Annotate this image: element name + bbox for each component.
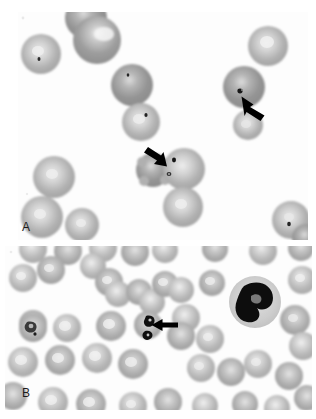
panel-a-label: A bbox=[22, 221, 31, 233]
figure-root: A B bbox=[0, 0, 316, 419]
panel-b-label: B bbox=[22, 387, 31, 399]
panel-a bbox=[18, 12, 308, 240]
neutrophil bbox=[229, 276, 281, 328]
panel-a-micrograph bbox=[18, 12, 308, 240]
panel-b bbox=[5, 246, 312, 410]
panel-b-micrograph bbox=[5, 246, 312, 410]
